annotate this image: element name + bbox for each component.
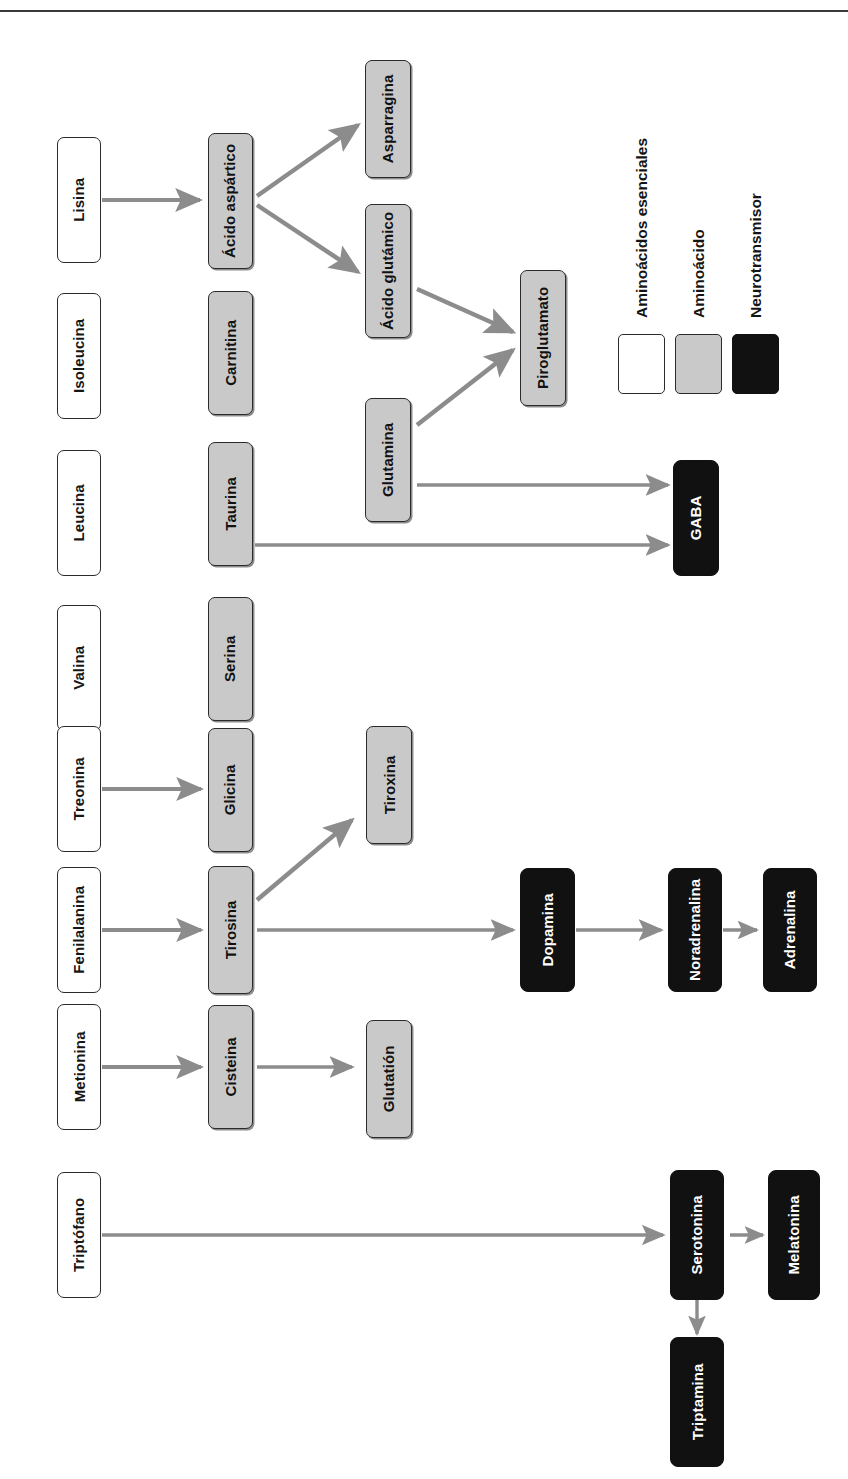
- legend: Aminoácidos esenciales Aminoácido Neurot…: [0, 0, 848, 1479]
- legend-swatch-amino: [675, 334, 722, 394]
- legend-label-essential: Aminoácidos esenciales: [633, 138, 651, 318]
- legend-swatch-neurotransmitter: [732, 334, 779, 394]
- legend-label-amino: Aminoácido: [690, 229, 708, 318]
- diagram-canvas: Lisina Isoleucina Leucina Valina Treonin…: [0, 0, 848, 1479]
- legend-label-neurotransmitter: Neurotransmisor: [747, 193, 765, 318]
- legend-swatch-essential: [618, 334, 665, 394]
